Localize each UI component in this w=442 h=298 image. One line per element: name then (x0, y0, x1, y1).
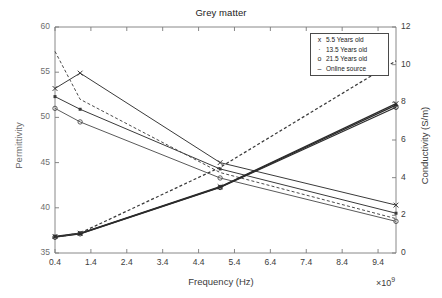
legend-item[interactable]: x5.5 Years old (313, 35, 386, 45)
y-tick-label-left: 60 (24, 21, 50, 31)
legend-label: Online source (326, 64, 366, 74)
y-axis-label-right: Conductivity (S/m) (419, 91, 430, 201)
chart-figure: Grey matter Permittivity Conductivity (S… (0, 0, 442, 298)
y-tick-label-right: 0 (401, 247, 427, 257)
legend-item[interactable]: ·13.5 Years old (313, 45, 386, 55)
series-permittivity-13-5-years-old (54, 95, 398, 215)
legend-label: 21.5 Years old (326, 54, 367, 64)
x-tick-label: 1.4 (76, 257, 106, 267)
x-tick-label: 3.4 (148, 257, 178, 267)
series-line (55, 105, 396, 237)
y-tick-label-right: 2 (401, 209, 427, 219)
legend-marker-icon: o (313, 54, 326, 64)
x-tick-label: 8.4 (327, 257, 357, 267)
legend-marker-icon: x (313, 35, 326, 45)
x-tick-label: 2.4 (112, 257, 142, 267)
series-line (55, 107, 396, 237)
x-tick-label: 0.4 (40, 257, 70, 267)
series-permittivity-online-source (55, 51, 396, 218)
legend-label: 5.5 Years old (326, 35, 364, 45)
y-tick-label-right: 10 (401, 59, 427, 69)
legend-item[interactable]: o21.5 Years old (313, 54, 386, 64)
series-permittivity-21-5-years-old (53, 106, 398, 223)
x-multiplier-exponent: 9 (391, 276, 395, 283)
y-tick-label-right: 12 (401, 21, 427, 31)
x-tick-label: 6.4 (255, 257, 285, 267)
legend-marker-icon: · (313, 45, 326, 55)
series-layer (53, 51, 399, 239)
y-tick-label-left: 40 (24, 202, 50, 212)
x-tick-label: 4.4 (184, 257, 214, 267)
y-tick-label-left: 35 (24, 247, 50, 257)
series-conductivity-online-source (55, 61, 396, 237)
x-tick-label: 7.4 (291, 257, 321, 267)
series-line (55, 97, 396, 214)
series-line (55, 61, 396, 237)
legend-marker-icon: – (313, 64, 326, 74)
series-conductivity-13-5-years-old (54, 104, 398, 239)
x-axis-multiplier: ×109 (376, 276, 395, 288)
series-line (55, 51, 396, 218)
x-tick-label: 9.4 (363, 257, 393, 267)
y-tick-label-right: 4 (401, 172, 427, 182)
series-line (55, 108, 396, 221)
y-tick-label-left: 50 (24, 111, 50, 121)
x-tick-label: 5.4 (219, 257, 249, 267)
series-conductivity-21-5-years-old (53, 105, 398, 239)
y-tick-label-right: 8 (401, 96, 427, 106)
y-tick-label-right: 6 (401, 134, 427, 144)
legend-label: 13.5 Years old (326, 45, 367, 55)
y-tick-label-left: 55 (24, 66, 50, 76)
x-multiplier-base: ×10 (376, 278, 391, 288)
legend-item[interactable]: –Online source (313, 64, 386, 74)
y-tick-label-left: 45 (24, 157, 50, 167)
y-axis-label-left: Permittivity (13, 96, 24, 196)
chart-legend[interactable]: x5.5 Years old·13.5 Years oldo21.5 Years… (310, 33, 389, 76)
